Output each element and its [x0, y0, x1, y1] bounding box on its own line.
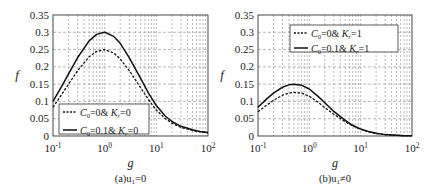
y-tick-label: 0.35: [235, 9, 255, 21]
x-tick-label: 100: [302, 141, 317, 154]
x-tick-label: 10-1: [249, 141, 266, 154]
y-tick-label: 0: [249, 130, 255, 142]
y-tick-label: 0.05: [30, 112, 50, 124]
x-tick-label: 10-1: [44, 141, 61, 154]
x-axis-label: g: [332, 156, 338, 170]
y-tick-label: 0.2: [35, 60, 49, 72]
x-tick-label: 100: [97, 141, 112, 154]
y-tick-label: 0.25: [30, 43, 50, 55]
legend: C0=0& Kr=1C0=0.1& Kr=1: [290, 25, 398, 55]
y-tick-label: 0.1: [35, 95, 49, 107]
y-tick-label: 0.15: [235, 78, 255, 90]
chart-panel-a: 00.050.10.150.20.250.30.3510-1100101102g…: [15, 9, 215, 187]
x-axis-label: g: [128, 156, 134, 170]
y-tick-label: 0.3: [240, 26, 254, 38]
y-tick-label: 0.1: [240, 95, 254, 107]
x-tick-label: 102: [405, 141, 420, 154]
y-axis-label: f: [15, 67, 21, 82]
x-tick-label: 101: [353, 141, 368, 154]
panel-caption: (a)u1=0: [115, 173, 147, 186]
x-tick-label: 102: [201, 141, 216, 154]
series-line-dotted: [258, 92, 412, 135]
y-tick-label: 0.35: [30, 9, 50, 21]
y-tick-label: 0.05: [235, 112, 255, 124]
y-tick-label: 0.25: [235, 43, 255, 55]
y-tick-label: 0.2: [240, 60, 254, 72]
y-tick-label: 0.3: [35, 26, 49, 38]
y-tick-label: 0.15: [30, 78, 50, 90]
y-tick-label: 0: [44, 130, 50, 142]
series-line-solid: [258, 84, 412, 136]
y-axis-label: f: [220, 67, 226, 82]
chart-panel-b: 00.050.10.150.20.250.30.3510-1100101102g…: [220, 9, 419, 187]
panel-caption: (b)u1≠0: [319, 173, 351, 186]
x-tick-label: 101: [149, 141, 164, 154]
figure: 00.050.10.150.20.250.30.3510-1100101102g…: [0, 0, 430, 191]
legend: C0=0& Kr=0C0=0.1& Kr=0: [59, 104, 149, 137]
